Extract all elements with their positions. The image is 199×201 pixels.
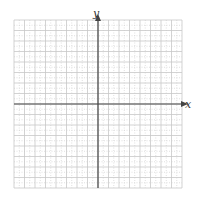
x-axis-label: x (185, 98, 192, 111)
coordinate-plane: x y (0, 0, 199, 201)
y-axis-label: y (92, 7, 100, 20)
